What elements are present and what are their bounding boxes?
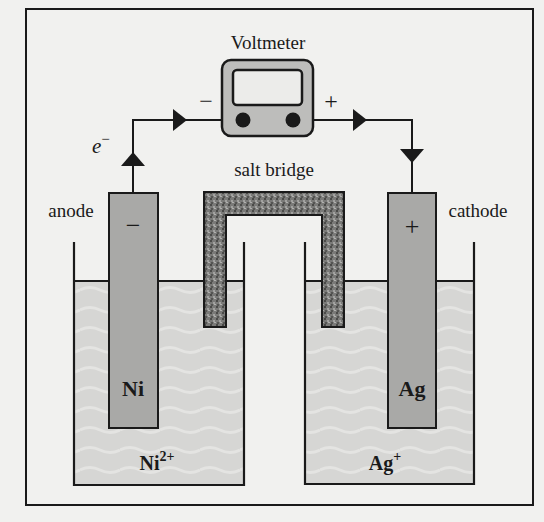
- anode-sign: −: [126, 211, 141, 240]
- voltmeter-pos-terminal: [286, 113, 301, 128]
- ni-electrode-label: Ni: [122, 376, 144, 401]
- arrow-right-icon: [353, 109, 367, 131]
- arrow-up-icon: [121, 152, 145, 166]
- electron-label: e−: [92, 131, 110, 158]
- ag-electrode-label: Ag: [399, 376, 426, 401]
- voltmeter-label: Voltmeter: [231, 32, 306, 53]
- voltmeter-pos-sign: +: [324, 88, 338, 114]
- anode-label: anode: [48, 200, 93, 221]
- voltmeter-screen: [233, 70, 302, 105]
- arrow-right-icon: [173, 109, 187, 131]
- salt-bridge-label: salt bridge: [234, 159, 314, 180]
- voltmeter-neg-sign: −: [199, 88, 213, 114]
- cathode-label: cathode: [448, 200, 507, 221]
- galvanic-cell-diagram: Voltmeter − + e− salt bridge anode catho…: [0, 0, 544, 522]
- voltmeter: [222, 60, 313, 136]
- voltmeter-neg-terminal: [236, 113, 251, 128]
- arrow-down-icon: [400, 149, 424, 163]
- cathode-sign: +: [405, 212, 420, 241]
- salt-bridge: [204, 192, 344, 327]
- wire-left: [133, 120, 229, 193]
